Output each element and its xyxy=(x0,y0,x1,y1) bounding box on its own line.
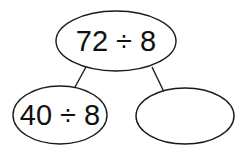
diagram-svg: 72 ÷ 8 40 ÷ 8 xyxy=(0,0,249,155)
connector-left xyxy=(75,67,86,87)
connector-right xyxy=(152,67,164,92)
root-node-label: 72 ÷ 8 xyxy=(76,25,156,57)
left-child-label: 40 ÷ 8 xyxy=(20,99,100,131)
right-child-node-empty xyxy=(136,88,234,144)
number-bond-diagram: 72 ÷ 8 40 ÷ 8 xyxy=(0,0,249,155)
